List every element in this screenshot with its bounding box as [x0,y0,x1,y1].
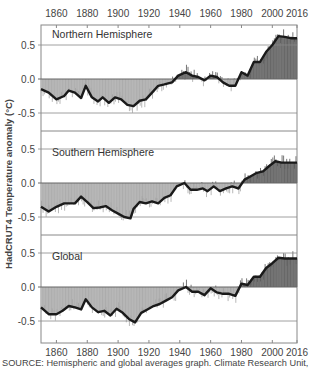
panel-title: Southern Hemisphere [52,146,154,158]
y-axis-label: HadCRUT4 Temperature anomaly (°C) [3,99,14,269]
x-tick-label-bottom: 1980 [230,347,253,358]
x-tick-label-bottom: 1960 [200,347,223,358]
y-tick-label: 0.5 [21,40,35,51]
x-tick-label-bottom: 2000 [261,347,284,358]
y-tick-label: -0.5 [18,108,36,119]
x-tick-label-top: 1920 [138,8,161,19]
x-tick-label-top: 1860 [45,8,68,19]
x-tick-label-bottom: 1900 [107,347,130,358]
y-tick-label: 0.0 [21,74,35,85]
x-tick-label-bottom: 2016 [286,347,309,358]
y-tick-label: -0.5 [18,316,36,327]
y-tick-label: 0.0 [21,178,35,189]
x-tick-label-top: 2016 [286,8,309,19]
y-tick-label: -0.5 [18,212,36,223]
y-tick-label: 0.5 [21,144,35,155]
x-tick-label-top: 1980 [230,8,253,19]
x-tick-label-bottom: 1860 [45,347,68,358]
y-tick-label: 0.0 [21,282,35,293]
temperature-anomaly-chart: 1860186018801880190019001920192019401940… [0,0,311,376]
x-tick-label-top: 1880 [76,8,99,19]
x-tick-label-bottom: 1920 [138,347,161,358]
x-tick-label-bottom: 1940 [169,347,192,358]
panel-title: Global [52,250,82,262]
x-tick-label-bottom: 1880 [76,347,99,358]
x-tick-label-top: 2000 [261,8,284,19]
x-tick-label-top: 1900 [107,8,130,19]
y-tick-label: 0.5 [21,248,35,259]
panel-title: Northern Hemisphere [52,28,153,40]
x-tick-label-top: 1940 [169,8,192,19]
source-caption: SOURCE: Hemispheric and global averages … [2,358,311,368]
x-tick-label-top: 1960 [200,8,223,19]
